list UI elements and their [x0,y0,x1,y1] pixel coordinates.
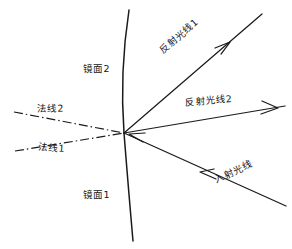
mirror-surface-line [123,10,133,241]
reflection-diagram: 镜面2 镜面1 法线2 法线1 反射光线1 反射光线2 入射光线 [0,0,292,249]
diagram-canvas [0,0,292,249]
normal-line-1 [15,133,124,151]
label-normal-2: 法线2 [37,104,64,114]
reflected-ray-2-line [124,106,285,133]
label-mirror-1: 镜面1 [83,190,110,200]
reflected-ray-2-arrowhead [261,101,278,114]
label-normal-1: 法线1 [38,142,65,153]
incident-ray-line [124,133,286,206]
label-mirror-2: 镜面2 [83,64,110,74]
incident-ray-arrowhead [129,133,145,142]
normal-line-2 [14,112,124,133]
reflected-ray-1-line [124,14,262,133]
